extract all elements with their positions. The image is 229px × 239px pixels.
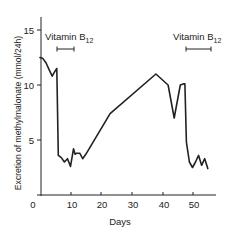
annotation-label: Vitamin B bbox=[173, 31, 213, 42]
excretion-data-line bbox=[40, 58, 208, 169]
y-axis-label: Excretion of methylmalonate (mmol/24h) bbox=[13, 36, 23, 190]
x-tick-label: 0 bbox=[30, 199, 35, 210]
y-tick-labels: 15 10 5 bbox=[23, 25, 34, 146]
svg-text:Vitamin B12: Vitamin B12 bbox=[173, 31, 221, 44]
methylmalonate-chart: 15 10 5 0 10 20 30 40 50 Days Excretion … bbox=[0, 0, 229, 239]
x-tick-label: 20 bbox=[97, 199, 108, 210]
annotation-vitamin-b12-first: Vitamin B12 bbox=[45, 31, 93, 52]
x-tick-labels: 0 10 20 30 40 50 bbox=[30, 199, 199, 210]
annotation-subscript: 12 bbox=[85, 37, 93, 44]
x-tick-label: 50 bbox=[189, 199, 200, 210]
annotation-vitamin-b12-second: Vitamin B12 bbox=[173, 31, 221, 52]
y-tick-label: 10 bbox=[23, 80, 34, 91]
x-tick-label: 30 bbox=[128, 199, 139, 210]
treatment-bar bbox=[186, 47, 211, 52]
x-tick-label: 10 bbox=[67, 199, 78, 210]
y-tick-label: 15 bbox=[23, 25, 34, 36]
annotation-subscript: 12 bbox=[213, 37, 221, 44]
treatment-bar bbox=[57, 47, 74, 52]
x-tick-label: 40 bbox=[159, 199, 170, 210]
svg-text:Vitamin B12: Vitamin B12 bbox=[45, 31, 93, 44]
y-tick-label: 5 bbox=[29, 135, 34, 146]
y-ticks bbox=[37, 30, 41, 140]
x-axis-label: Days bbox=[109, 216, 131, 227]
annotation-label: Vitamin B bbox=[45, 31, 85, 42]
